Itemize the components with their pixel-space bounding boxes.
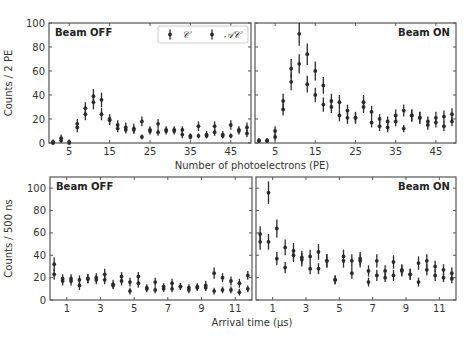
data-point <box>308 267 312 271</box>
data-point <box>283 246 287 250</box>
data-point <box>94 278 98 282</box>
x-tick-label: 7 <box>165 303 171 314</box>
data-point <box>450 277 454 281</box>
data-point <box>100 112 104 116</box>
data-point <box>197 134 201 138</box>
x-tick-label: 5 <box>336 303 342 314</box>
y-tick-label: 20 <box>33 272 46 283</box>
x-tick-label: 5 <box>131 303 137 314</box>
y-tick-label: 0 <box>39 138 45 149</box>
data-point <box>83 112 87 116</box>
data-point <box>170 281 174 285</box>
data-point <box>145 287 149 291</box>
data-point <box>78 284 82 288</box>
data-point <box>378 117 382 121</box>
data-point <box>418 116 422 120</box>
data-point <box>375 274 379 278</box>
x-tick-label: 35 <box>184 146 197 157</box>
y-tick-label: 100 <box>26 18 45 29</box>
data-point <box>289 67 293 71</box>
data-point <box>442 115 446 119</box>
data-point <box>292 253 296 257</box>
data-point <box>103 278 107 282</box>
data-point <box>305 82 309 86</box>
data-point <box>61 279 65 283</box>
data-point <box>273 135 277 139</box>
data-point <box>124 128 128 132</box>
data-point <box>170 287 174 291</box>
data-point <box>400 269 404 273</box>
data-point <box>442 276 446 280</box>
data-point <box>162 287 166 291</box>
data-point <box>212 271 216 275</box>
panel-pe-beam-off: 515253545020406080100Counts / 2 PEBeam O… <box>3 18 251 158</box>
figure: 515253545020406080100Counts / 2 PEBeam O… <box>0 0 475 339</box>
data-point <box>229 279 233 283</box>
y-tick-label: 60 <box>32 66 45 77</box>
data-point <box>350 259 354 263</box>
data-point <box>204 286 208 290</box>
data-point <box>132 128 136 132</box>
data-point <box>317 267 321 271</box>
data-point <box>237 129 241 133</box>
x-tick-label: 15 <box>103 146 116 157</box>
data-point <box>402 127 406 131</box>
data-point <box>338 114 342 118</box>
data-point <box>375 259 379 263</box>
data-point <box>425 268 429 272</box>
data-point <box>329 105 333 109</box>
data-point <box>205 134 209 138</box>
data-point <box>408 272 412 276</box>
data-point <box>281 108 285 112</box>
data-point <box>51 141 55 145</box>
data-point <box>321 84 325 88</box>
x-tick-label: 11 <box>433 303 446 314</box>
data-point <box>179 285 183 289</box>
data-point <box>265 139 269 143</box>
data-point <box>346 116 350 120</box>
data-point <box>246 287 250 291</box>
data-point <box>237 290 241 294</box>
x-tick-label: 7 <box>369 303 375 314</box>
legend-marker-icon <box>210 33 214 37</box>
data-point <box>367 280 371 284</box>
y-tick-label: 100 <box>27 183 46 194</box>
data-point <box>221 134 225 138</box>
data-point <box>342 259 346 263</box>
panel-title: Beam ON <box>398 181 450 192</box>
data-point <box>300 258 304 262</box>
data-point <box>136 275 140 279</box>
y-tick-label: 80 <box>32 42 45 53</box>
data-point <box>417 280 421 284</box>
data-point <box>148 129 152 133</box>
y-tick-label: 40 <box>32 90 45 101</box>
data-point <box>267 191 271 195</box>
x-tick-label: 3 <box>303 303 309 314</box>
data-point <box>354 116 358 120</box>
data-point <box>229 288 233 292</box>
data-point <box>136 281 140 285</box>
data-point <box>378 124 382 128</box>
data-point <box>156 130 160 134</box>
data-point <box>52 272 56 276</box>
data-point <box>450 112 454 116</box>
data-point <box>213 124 217 128</box>
data-point <box>100 98 104 102</box>
data-point <box>442 124 446 128</box>
legend: 𝒞𝒜𝒞 <box>158 26 248 43</box>
data-point <box>386 126 390 130</box>
data-point <box>313 93 317 97</box>
data-point <box>180 133 184 137</box>
data-point <box>402 109 406 113</box>
data-point <box>140 120 144 124</box>
data-point <box>189 135 193 139</box>
data-point <box>111 284 115 288</box>
x-tick-label: 25 <box>144 146 157 157</box>
data-point <box>153 280 157 284</box>
y-axis-label: Counts / 2 PE <box>3 50 14 117</box>
data-point <box>275 257 279 261</box>
axes-frame <box>255 23 456 143</box>
data-point <box>229 123 233 127</box>
x-tick-label: 1 <box>64 303 70 314</box>
y-axis-label: Counts / 500 ns <box>3 199 14 277</box>
